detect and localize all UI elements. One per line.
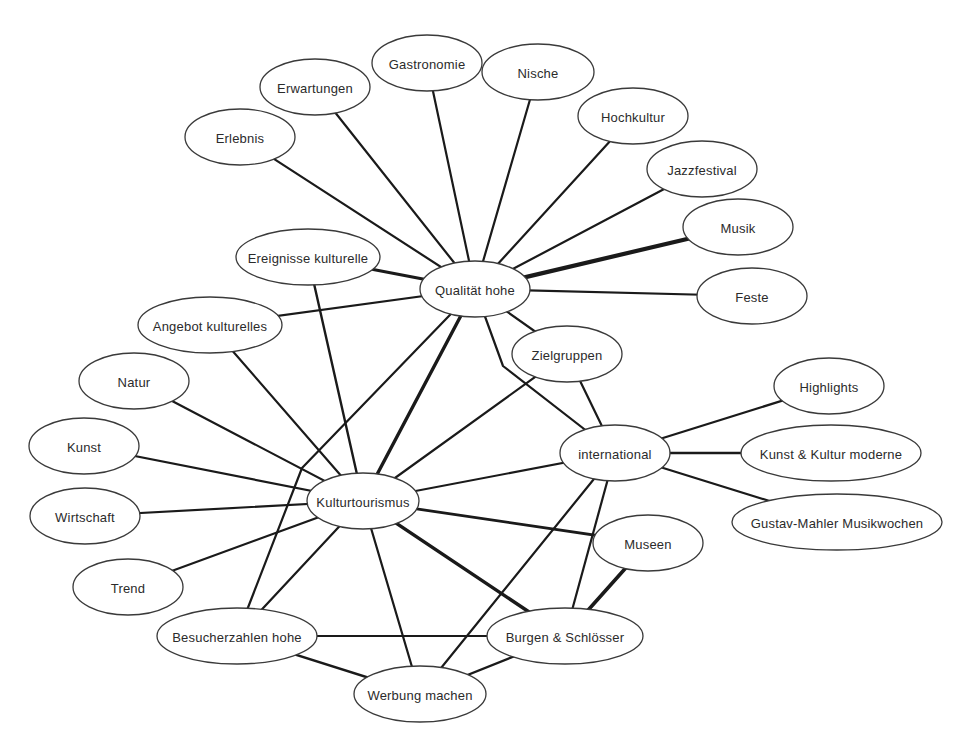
node-label: Angebot kulturelles [153,319,268,334]
edge-qualitaet-kulturtourismus [363,289,475,501]
node-label: Trend [111,581,145,596]
node-label: Jazzfestival [667,163,737,178]
node-erwartungen: Erwartungen [260,59,370,115]
node-label: Feste [735,290,769,305]
node-label: Kunst & Kultur moderne [760,447,902,462]
node-kunst: Kunst [29,418,139,474]
node-trend: Trend [73,559,183,615]
node-label: Qualität hohe [435,283,515,298]
concept-network-diagram: ErlebnisErwartungenGastronomieNischeHoch… [0,0,975,754]
node-angebot: Angebot kulturelles [138,297,282,353]
node-label: Kulturtourismus [316,495,410,510]
node-label: Zielgruppen [532,348,603,363]
node-burgen: Burgen & Schlösser [487,608,643,664]
node-zielgruppen: Zielgruppen [512,326,622,382]
node-label: Wirtschaft [55,510,115,525]
node-natur: Natur [79,353,189,409]
node-gastronomie: Gastronomie [372,35,482,91]
node-wirtschaft: Wirtschaft [30,488,140,544]
node-werbung: Werbung machen [354,666,486,722]
node-label: Gastronomie [389,57,466,72]
node-label: Hochkultur [601,110,666,125]
node-musik: Musik [683,199,793,255]
edge-qualitaet-besucherzahlen [237,289,475,636]
node-highlights: Highlights [774,358,884,414]
node-besucherzahlen: Besucherzahlen hohe [157,608,317,664]
node-ereignisse: Ereignisse kulturelle [236,229,380,285]
edge-qualitaet-gastronomie [427,63,475,289]
node-erlebnis: Erlebnis [185,109,295,165]
node-label: Ereignisse kulturelle [248,251,369,266]
node-label: Burgen & Schlösser [506,630,625,645]
node-label: Werbung machen [367,688,472,703]
node-feste: Feste [697,268,807,324]
node-jazzfestival: Jazzfestival [647,141,757,197]
node-label: international [578,447,651,462]
node-label: Nische [518,66,559,81]
node-label: Museen [624,537,671,552]
node-label: Erwartungen [277,81,353,96]
node-qualitaet: Qualität hohe [420,261,530,317]
diagram-svg: ErlebnisErwartungenGastronomieNischeHoch… [0,0,975,754]
node-label: Besucherzahlen hohe [172,630,302,645]
node-mahler: Gustav-Mahler Musikwochen [732,494,942,550]
node-kunstkultur: Kunst & Kultur moderne [741,425,921,481]
node-label: Natur [118,375,151,390]
node-hochkultur: Hochkultur [578,88,688,144]
node-label: Erlebnis [216,131,265,146]
edge-qualitaet-nische [475,72,538,289]
node-nische: Nische [482,44,594,100]
node-label: Musik [721,221,756,236]
node-international: international [560,425,670,481]
edge-ereignisse-kulturtourismus [308,257,363,501]
node-kulturtourismus: Kulturtourismus [307,473,419,529]
nodes-layer: ErlebnisErwartungenGastronomieNischeHoch… [29,35,942,722]
node-museen: Museen [593,515,703,571]
edge-kulturtourismus-werbung [363,501,420,694]
node-label: Kunst [67,440,101,455]
node-label: Gustav-Mahler Musikwochen [751,516,924,531]
node-label: Highlights [799,380,858,395]
